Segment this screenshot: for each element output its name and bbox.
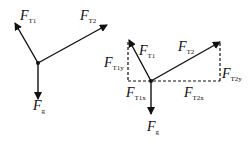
label-ft2: FT2 (177, 39, 195, 56)
label-ft1x: FT1x (125, 85, 146, 102)
ft2-arrow (38, 25, 107, 63)
label-ft1: FT1 (138, 43, 156, 60)
label-fg: Fg (32, 98, 46, 115)
label-ft2y: FT2y (221, 66, 242, 83)
center-point (149, 79, 153, 83)
label-ft2: FT2 (79, 8, 97, 25)
ft1-arrow (15, 23, 38, 63)
label-ft1: FT1 (19, 8, 37, 25)
label-ft1y: FT1y (103, 55, 124, 72)
left-free-body-diagram: FT1 FT2 Fg (15, 8, 107, 115)
center-point (36, 61, 40, 65)
label-ft2x: FT2x (183, 85, 204, 102)
force-diagram: FT1 FT2 Fg FT1 FT2 FT1y FT1x FT2y FT2x F… (0, 0, 251, 145)
right-component-diagram: FT1 FT2 FT1y FT1x FT2y FT2x Fg (103, 39, 242, 136)
label-fg: Fg (146, 119, 160, 136)
